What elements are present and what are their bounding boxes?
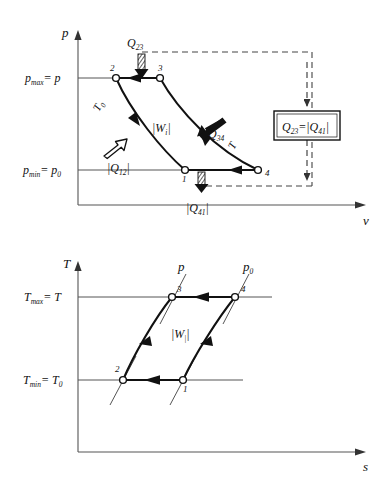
- pv-x-axis-label: v: [363, 213, 369, 228]
- pv-state-label-2: 2: [110, 63, 115, 73]
- pv-state-label-3: 3: [157, 63, 163, 73]
- equality-box-right: |Q: [306, 120, 318, 134]
- pmin-equals: = p: [40, 163, 57, 177]
- label-work-ts-main: |W: [171, 327, 185, 341]
- pv-state-point-4: [255, 167, 262, 174]
- pmax-subscript: max: [31, 78, 44, 87]
- ts-x-axis-label: s: [363, 459, 368, 474]
- pv-y-axis-label: p: [61, 25, 69, 40]
- svg-text:pmax= p: pmax= p: [24, 71, 61, 87]
- ts-process-2-1-arrow: [144, 375, 160, 385]
- label-Q34-sub: 34: [216, 134, 225, 143]
- pv-state-point-1: [182, 167, 189, 174]
- heat-reject-arrow-41: [195, 172, 209, 193]
- pmin-equals-subscript: 0: [57, 170, 61, 179]
- ts-state-point-3: [169, 294, 176, 301]
- label-Q34-main: Q: [208, 127, 217, 141]
- equality-box-right-tail: |: [326, 120, 329, 134]
- label-work-ts: |W||: [171, 327, 190, 343]
- ts-y-axis-label: T: [63, 256, 71, 271]
- label-work-ts-tail: |: [186, 327, 189, 341]
- ts-state-point-4: [232, 294, 239, 301]
- equality-box-left: Q: [282, 120, 291, 134]
- heat-outline-arrow-12: [104, 139, 127, 159]
- label-Q12: |Q12|: [107, 161, 130, 177]
- process-1-2-arrow: [128, 112, 140, 126]
- Tmin-equals: = T: [41, 373, 60, 387]
- ts-state-point-1: [180, 377, 187, 384]
- label-Q23-main: Q: [127, 36, 136, 50]
- ts-state-label-3: 3: [176, 284, 182, 294]
- pv-state-label-4: 4: [265, 168, 270, 178]
- process-4-1-arrow: [228, 166, 242, 175]
- label-Q41-main: |Q: [186, 201, 198, 215]
- Tmin-subscript: min: [30, 380, 42, 389]
- pmin-tick-label: pmin= p0: [22, 163, 61, 179]
- pv-state-label-1: 1: [182, 174, 187, 184]
- label-Q23: Q23: [127, 36, 143, 52]
- figure-canvas: p v pmax= p pmin= p0: [0, 0, 391, 488]
- label-Q34: Q34: [208, 127, 224, 143]
- pmax-tick-label: pmax= p: [24, 71, 61, 87]
- ts-y-axis-arrow: [74, 261, 81, 271]
- label-Q12-main: |Q: [107, 161, 119, 175]
- label-work-pv: |Wi|: [152, 121, 171, 137]
- equality-box-right-sub: 41: [318, 127, 326, 136]
- label-Q41: |Q41|: [186, 201, 209, 217]
- ts-state-point-2: [120, 377, 127, 384]
- label-isobar-p0: p0: [242, 259, 254, 276]
- ts-state-label-4: 4: [241, 284, 246, 294]
- label-work-pv-tail: |: [167, 121, 170, 135]
- label-isotherm-T0-pv: T0: [90, 98, 108, 114]
- Tmin-equals-subscript: 0: [59, 380, 63, 389]
- label-Q12-tail: |: [126, 161, 129, 175]
- pv-diagram: p v pmax= p pmin= p0: [22, 25, 369, 228]
- Tmax-equals: = T: [43, 290, 62, 304]
- pv-state-point-3: [157, 75, 164, 82]
- ts-diagram: T s Tmax= T Tmin= T0: [23, 256, 368, 474]
- process-3-4: [160, 78, 258, 170]
- equality-box: Q23=|Q41|: [274, 111, 340, 140]
- ts-process-3-4-arrow: [193, 292, 209, 302]
- ts-axes: [74, 261, 366, 456]
- pmax-equals: = p: [44, 71, 61, 85]
- svg-text:pmin= p0: pmin= p0: [22, 163, 61, 179]
- label-Q23-sub: 23: [136, 43, 144, 52]
- label-work-pv-main: |W: [152, 121, 166, 135]
- equality-box-eq: =: [298, 120, 306, 134]
- pmax-symbol: p: [24, 71, 31, 85]
- label-Q41-sub: 41: [198, 208, 206, 217]
- thermodynamic-cycle-diagram: p v pmax= p pmin= p0: [0, 0, 391, 488]
- Tmin-tick-label: Tmin= T0: [23, 373, 63, 389]
- pv-x-axis-arrow: [355, 201, 366, 208]
- label-Q41-tail: |: [205, 201, 208, 215]
- pmin-subscript: min: [29, 170, 41, 179]
- Tmax-tick-label: Tmax= T: [24, 290, 62, 306]
- label-isotherm-T-pv: T: [225, 139, 239, 151]
- label-isobar-p0-sub: 0: [250, 267, 254, 276]
- process-1-2: [116, 78, 185, 170]
- pmin-symbol: p: [22, 163, 29, 177]
- Tmax-subscript: max: [31, 297, 44, 306]
- pv-y-axis-arrow: [74, 30, 81, 40]
- ts-state-label-2: 2: [115, 364, 120, 374]
- pv-state-point-2: [113, 75, 120, 82]
- ts-state-label-1: 1: [183, 384, 188, 394]
- ts-x-axis-arrow: [355, 448, 366, 455]
- label-isobar-p: p: [177, 259, 185, 274]
